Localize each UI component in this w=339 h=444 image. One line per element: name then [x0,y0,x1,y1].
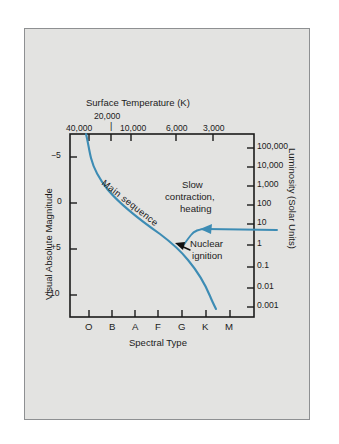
spectral-label-O: O [85,322,92,332]
spectral-label-K: K [202,322,208,332]
right-axis-title: Luminosity (Solar Units) [287,148,297,249]
spectral-label-A: A [132,322,138,332]
contraction-arrowhead [200,224,212,234]
right-tick-1000: 1,000 [257,180,279,189]
left-tick-plus5: +5 [51,243,61,252]
left-tick-plus10: +10 [45,289,60,298]
bottom-axis-title: Spectral Type [129,338,187,348]
left-tick-0: 0 [57,197,62,206]
right-axis-ticks [247,148,254,307]
spectral-label-F: F [155,322,161,332]
right-tick-1: 1 [257,239,262,248]
spectral-label-M: M [225,322,233,332]
right-tick-0-01: 0.01 [257,282,274,291]
spectral-label-G: G [178,322,185,332]
right-tick-100000: 100,000 [257,142,288,151]
annotation-slow-line3: heating [180,204,211,214]
top-tick-20000: 20,000 [94,112,120,121]
top-axis-title: Surface Temperature (K) [86,98,190,108]
annotation-slow-line2: contraction, [165,192,215,202]
top-tick-3000: 3,000 [203,124,225,133]
top-tick-10000: 10,000 [120,124,146,133]
right-tick-0-001: 0.001 [257,301,279,310]
plot-frame [70,134,254,317]
bottom-axis-ticks [89,310,230,317]
top-tick-40000: 40,000 [66,124,92,133]
left-tick-minus5: −5 [51,151,61,160]
spectral-label-B: B [109,322,115,332]
right-tick-0-1: 0.1 [257,261,269,270]
hr-diagram-figure: Surface Temperature (K) 40,000 20,000 | … [0,0,339,444]
top-tick-20000-leader: | [110,122,112,131]
top-tick-6000: 6,000 [166,124,188,133]
annotation-nuclear-line1: Nuclear [190,239,223,249]
top-axis-ticks [89,134,213,141]
right-tick-10000: 10,000 [257,161,283,170]
annotation-nuclear-line2: ignition [192,251,222,261]
right-tick-10: 10 [257,218,267,227]
right-tick-100: 100 [257,199,271,208]
left-axis-ticks [70,157,77,295]
annotation-slow-line1: Slow [182,180,203,190]
